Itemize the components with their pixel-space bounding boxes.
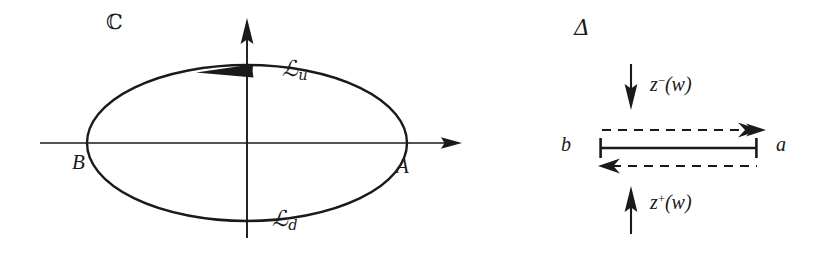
- contour-lower-branch-label: ℒd: [272, 208, 298, 233]
- segment-right-endpoint-label: a: [776, 134, 786, 154]
- contour-lower-branch-subscript: d: [288, 217, 298, 233]
- figure-root: ℂ ℒu ℒd A B Δ z−(w) z+(w) b a: [0, 0, 828, 253]
- z-plus-superscript: +: [658, 192, 665, 206]
- z-minus-label: z−(w): [650, 74, 692, 94]
- z-minus-base: z: [650, 73, 658, 95]
- contour-upper-branch-symbol: ℒ: [282, 56, 298, 81]
- contour-upper-branch-label: ℒu: [282, 58, 308, 83]
- z-minus-superscript: −: [658, 74, 665, 88]
- figure-canvas: [0, 0, 828, 253]
- z-plus-base: z: [650, 191, 658, 213]
- contour-left-vertex-label: B: [72, 152, 85, 173]
- contour-right-vertex-label: A: [396, 156, 409, 177]
- contour-upper-branch-subscript: u: [298, 67, 308, 83]
- delta-region-label: Δ: [574, 17, 590, 39]
- contour-lower-branch-symbol: ℒ: [272, 206, 288, 231]
- complex-plane-label: ℂ: [106, 12, 123, 33]
- z-plus-label: z+(w): [650, 192, 692, 212]
- segment-left-endpoint-label: b: [561, 134, 571, 154]
- z-minus-argument: (w): [665, 73, 692, 95]
- left-panel-group: [40, 18, 462, 238]
- z-plus-argument: (w): [665, 191, 692, 213]
